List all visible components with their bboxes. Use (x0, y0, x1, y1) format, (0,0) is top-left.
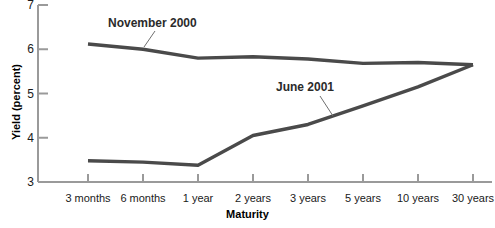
x-tick-label-7: 30 years (452, 192, 494, 204)
y-axis-title: Yield (percent) (10, 42, 22, 162)
leader-line-0 (144, 31, 155, 47)
annotation-leader-lines (144, 31, 333, 116)
x-tick-label-2: 1 year (183, 192, 214, 204)
series-annotation-0: November 2000 (108, 16, 197, 30)
x-tick-label-3: 2 years (235, 192, 271, 204)
series-line-0 (88, 44, 473, 65)
y-axis-ticks (38, 5, 48, 182)
yield-curve-chart: 34567 3 months6 months1 year2 years3 yea… (0, 0, 495, 228)
x-tick-label-6: 10 years (397, 192, 439, 204)
x-tick-label-4: 3 years (290, 192, 326, 204)
x-tick-label-5: 5 years (345, 192, 381, 204)
x-axis-ticks (88, 174, 473, 182)
series-annotation-1: June 2001 (276, 80, 334, 94)
y-tick-label-7: 7 (12, 0, 34, 11)
x-axis-title: Maturity (0, 208, 495, 220)
x-tick-label-0: 3 months (65, 192, 110, 204)
x-tick-label-1: 6 months (120, 192, 165, 204)
leader-line-1 (320, 96, 333, 116)
series-lines (88, 44, 473, 165)
y-tick-label-3: 3 (12, 176, 34, 188)
